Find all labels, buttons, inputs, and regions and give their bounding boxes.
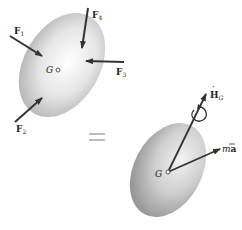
force-label-f2: F2 — [16, 124, 26, 135]
force-label-f3: F3 — [116, 67, 126, 78]
center-of-mass-point-right — [166, 170, 170, 174]
rigid-body-left — [1, 0, 123, 132]
force-label-f1: F1 — [14, 26, 24, 37]
dynamics-diagram: F1 F4 F3 F2 G HG · ma G — [0, 0, 242, 230]
center-of-mass-label-right: G — [155, 169, 162, 179]
force-label-f4: F4 — [92, 10, 102, 21]
equals-sign — [89, 133, 105, 141]
linear-inertia-label: ma — [222, 144, 237, 154]
free-body-diagram: F1 F4 F3 F2 G — [1, 0, 126, 135]
center-of-mass-label-left: G — [46, 65, 53, 75]
center-of-mass-point-left — [56, 68, 60, 72]
force-arrow-f3 — [86, 61, 124, 62]
angular-momentum-dot: · — [212, 82, 215, 92]
kinetic-diagram: HG · ma G — [115, 82, 237, 230]
